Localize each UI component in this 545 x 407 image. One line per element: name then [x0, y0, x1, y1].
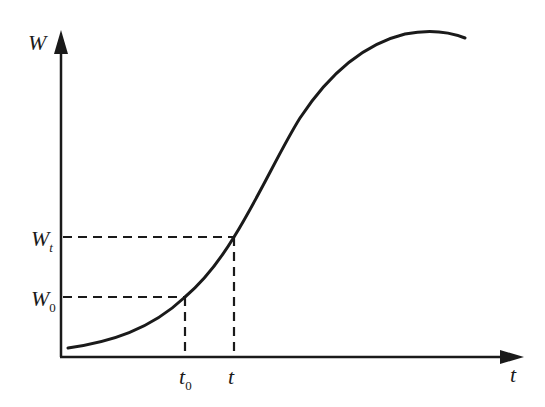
w0-label: W0 [31, 286, 56, 315]
y-axis-arrow-icon [54, 30, 68, 54]
growth-curve [68, 31, 465, 348]
y-axis-label: W [28, 30, 48, 55]
growth-curve-diagram: W t Wt W0 t0 t [0, 0, 545, 407]
wt-label: Wt [31, 226, 53, 255]
x-axis-label: t [510, 362, 517, 387]
t-label: t [228, 364, 235, 389]
t0-label: t0 [179, 364, 192, 393]
